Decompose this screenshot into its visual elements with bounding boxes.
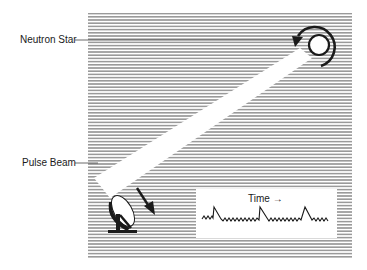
neutron-star-label: Neutron Star bbox=[20, 35, 77, 45]
pulsar-diagram: Neutron Star Pulse Beam Time → bbox=[0, 0, 367, 270]
neutron-star-icon bbox=[309, 35, 329, 55]
time-axis-label: Time → bbox=[248, 194, 283, 204]
pulse-beam-label: Pulse Beam bbox=[22, 158, 76, 168]
